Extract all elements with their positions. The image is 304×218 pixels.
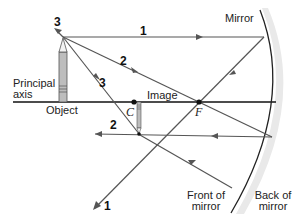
principal-axis-label-2: axis	[13, 88, 33, 100]
focal-point	[196, 99, 201, 104]
ray-3-reflected-line	[140, 135, 232, 188]
c-label: C	[126, 106, 134, 118]
ray-2-incident-number: 2	[120, 55, 127, 67]
center-of-curvature-point	[131, 99, 136, 104]
object-pencil	[59, 38, 67, 102]
image-tip-point	[137, 132, 141, 136]
mirror-back-shade	[236, 8, 283, 214]
ray-1-incident-number: 1	[140, 25, 147, 37]
ray-3-back-number: 3	[54, 16, 61, 28]
f-label: F	[195, 106, 202, 118]
ray-1-reflected-number: 1	[104, 200, 111, 212]
front-of-mirror-label-2: mirror	[184, 200, 228, 212]
ray-2-reflected-number: 2	[110, 119, 117, 131]
mirror-label: Mirror	[225, 12, 254, 24]
concave-mirror	[231, 10, 273, 213]
ray-2-reflected	[95, 134, 272, 137]
image-label: Image	[147, 89, 178, 101]
ray-2-incident	[63, 37, 272, 137]
ray-3-incident-number: 3	[99, 77, 106, 89]
back-of-mirror-label-2: mirror	[251, 200, 295, 212]
object-label: Object	[46, 104, 78, 116]
image-pencil	[137, 102, 141, 134]
